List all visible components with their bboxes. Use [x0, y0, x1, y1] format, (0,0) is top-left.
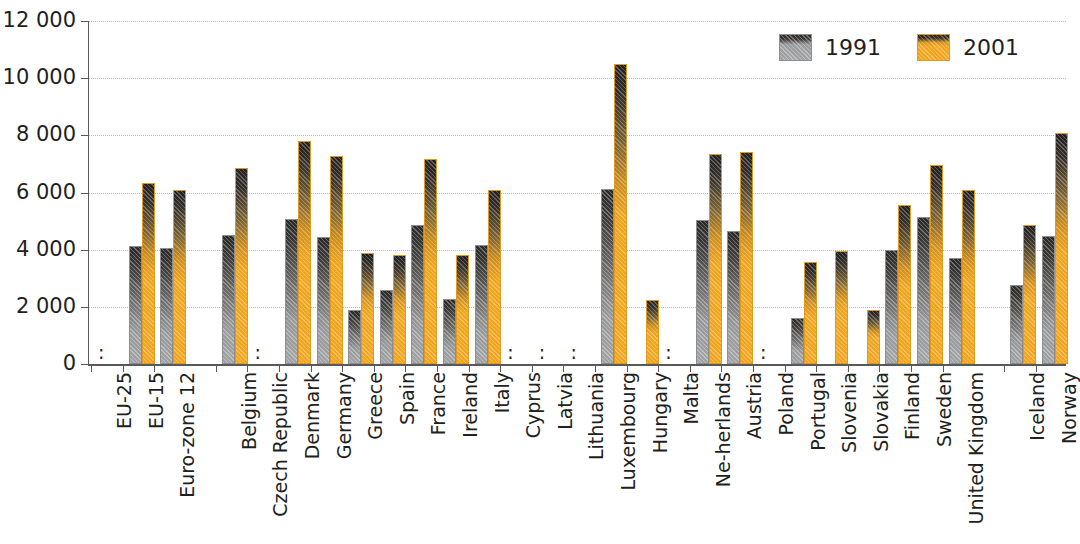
- bar-2001: [614, 64, 627, 364]
- x-axis-tick: [532, 364, 533, 372]
- bar-fill: [614, 64, 627, 364]
- x-axis-tick: [216, 364, 217, 372]
- x-axis-tick-label: Slovakia: [872, 372, 891, 452]
- bar-fill: [867, 310, 880, 364]
- x-axis-tick-label: Spain: [398, 372, 417, 425]
- x-axis-tick: [342, 364, 343, 372]
- bar-group: :: [96, 21, 128, 364]
- gray-swatch-icon: [779, 34, 812, 61]
- legend: 1991 2001: [779, 34, 1019, 61]
- bar-1991: [222, 235, 235, 364]
- x-axis-line: [88, 364, 1066, 366]
- y-axis-tick-label: 10 000: [0, 67, 76, 88]
- bar-2001: [235, 168, 248, 364]
- bar-fill: [222, 235, 235, 364]
- x-axis-tick: [1036, 364, 1037, 372]
- x-axis-tick-label: Portugal: [809, 372, 828, 451]
- bar-group: :: [252, 21, 284, 364]
- bar-group: [379, 21, 411, 364]
- bar-group: [884, 21, 916, 364]
- bar-fill: [1023, 225, 1036, 364]
- bar-2001: [456, 255, 469, 364]
- y-axis-tick: [81, 135, 88, 136]
- bar-fill: [898, 205, 911, 364]
- bar-fill: [456, 255, 469, 364]
- bar-group: [316, 21, 348, 364]
- bar-fill: [962, 190, 975, 364]
- x-axis-tick-label: Italy: [493, 372, 512, 413]
- bar-group: :: [505, 21, 537, 364]
- bar-fill: [361, 253, 374, 364]
- bar-2001: [709, 154, 722, 364]
- bar-1991: [285, 219, 298, 364]
- x-axis-tick-label: Euro-zone 12: [178, 372, 197, 498]
- x-axis-tick-label: Greece: [366, 372, 385, 440]
- bar-1991: [443, 299, 456, 364]
- x-axis-tick: [627, 364, 628, 372]
- bar-1991: [380, 290, 393, 364]
- x-axis-tick: [879, 364, 880, 372]
- legend-item-1991: 1991: [779, 34, 881, 61]
- bar-fill: [424, 159, 437, 364]
- bar-group: :: [663, 21, 695, 364]
- bar-fill: [380, 290, 393, 364]
- bar-2001: [867, 310, 880, 364]
- y-axis-tick-label: 12 000: [0, 10, 76, 31]
- x-axis-tick-label: United Kingdom: [967, 372, 986, 525]
- bar-1991: [791, 318, 804, 364]
- bar-fill: [696, 220, 709, 364]
- x-axis-tick-label: EU-25: [115, 372, 134, 429]
- bar-group: [284, 21, 316, 364]
- bar-fill: [740, 152, 753, 364]
- bar-fill: [791, 318, 804, 364]
- x-axis-tick: [279, 364, 280, 372]
- no-data-marker: :: [570, 343, 576, 362]
- bar-fill: [1055, 133, 1068, 364]
- no-data-marker: :: [507, 343, 513, 362]
- bar-fill: [709, 154, 722, 364]
- legend-label-2001: 2001: [963, 37, 1019, 59]
- bar-1991: [1010, 285, 1023, 364]
- x-axis-tick-label: Lithuania: [587, 372, 606, 460]
- bar-group: [600, 21, 632, 364]
- x-axis-tick: [123, 364, 124, 372]
- no-data-marker: :: [539, 343, 545, 362]
- x-axis-tick-label: Czech Republic: [271, 372, 290, 517]
- bar-fill: [330, 156, 343, 364]
- bar-fill: [727, 231, 740, 364]
- x-axis-tick-label: Norway: [1060, 372, 1079, 444]
- y-axis-tick: [81, 307, 88, 308]
- bar-2001: [898, 205, 911, 364]
- bar-fill: [1042, 236, 1055, 364]
- bar-2001: [962, 190, 975, 364]
- no-data-marker: :: [665, 343, 671, 362]
- x-axis-tick: [1004, 364, 1005, 372]
- bar-1991: [885, 250, 898, 364]
- bar-group: [159, 21, 191, 364]
- bar-group: [821, 21, 853, 364]
- bar-2001: [804, 262, 817, 364]
- bar-group: :: [537, 21, 569, 364]
- bar-1991: [411, 225, 424, 364]
- bar-2001: [1023, 225, 1036, 364]
- x-axis-tick-label: Austria: [745, 372, 764, 439]
- bar-group: :: [758, 21, 790, 364]
- bar-2001: [361, 253, 374, 364]
- bar-fill: [917, 217, 930, 364]
- bar-fill: [142, 183, 155, 365]
- x-axis-tick-label: EU-15: [147, 372, 166, 429]
- x-axis-tick-label: Slovenia: [840, 372, 859, 453]
- bar-2001: [740, 152, 753, 364]
- x-axis-tick: [911, 364, 912, 372]
- y-axis-tick-label: 4 000: [0, 239, 76, 260]
- bar-fill: [393, 255, 406, 364]
- x-axis-tick-label: Hungary: [651, 372, 670, 453]
- bar-fill: [411, 225, 424, 364]
- bar-1991: [129, 246, 142, 364]
- bar-fill: [160, 248, 173, 364]
- y-axis-tick-label: 6 000: [0, 182, 76, 203]
- x-axis-tick: [690, 364, 691, 372]
- bar-group: [726, 21, 758, 364]
- plot-area: :::::::: [88, 21, 1066, 364]
